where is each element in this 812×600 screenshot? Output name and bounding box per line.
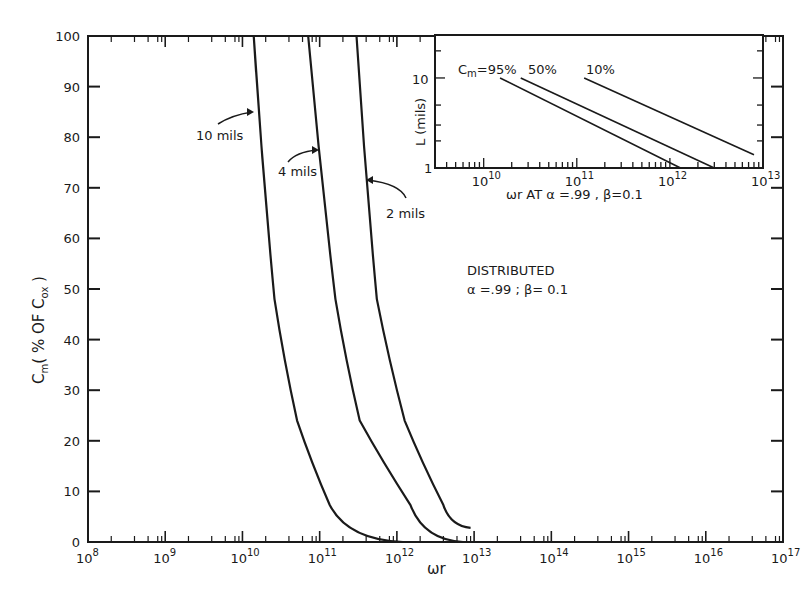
curve-label-4-mils: 4 mils: [278, 146, 319, 179]
main-x-axis-label: ωr: [427, 560, 447, 578]
svg-text:10 mils: 10 mils: [196, 128, 244, 143]
inset-xtick-label: 1012: [658, 170, 687, 189]
main-ytick-label: 100: [55, 29, 80, 44]
main-xtick-label: 1013: [462, 547, 491, 566]
svg-text:50%: 50%: [528, 62, 557, 77]
inset-ytick-10: 10: [412, 72, 429, 87]
main-ytick-label: 90: [63, 80, 80, 95]
inset-plot: 1010101110121013: [435, 35, 780, 189]
inset-ytick-1: 1: [424, 161, 432, 176]
main-xtick-label: 1010: [230, 547, 259, 566]
main-ytick-label: 50: [63, 282, 80, 297]
main-xtick-label: 1016: [694, 547, 723, 566]
inset-y-axis-label: L (mils): [413, 98, 428, 146]
main-ytick-label: 80: [63, 130, 80, 145]
svg-text:4 mils: 4 mils: [278, 164, 317, 179]
main-xtick-label: 1017: [771, 547, 800, 566]
curve-10-mils: [254, 36, 403, 542]
inset-x-axis-label: ωr AT α =.99 , β=0.1: [506, 187, 643, 202]
main-xtick-label: 1012: [385, 547, 414, 566]
svg-text:2 mils: 2 mils: [386, 206, 425, 221]
main-ytick-label: 0: [72, 535, 80, 550]
main-ytick-label: 30: [63, 383, 80, 398]
main-xtick-label: 1015: [617, 547, 646, 566]
svg-text:DISTRIBUTED: DISTRIBUTED: [467, 263, 555, 278]
main-ytick-label: 40: [63, 333, 80, 348]
main-ytick-label: 20: [63, 434, 80, 449]
main-xtick-label: 1014: [539, 547, 568, 566]
chart-canvas: 0102030405060708090100 10810910101011101…: [0, 0, 812, 600]
main-xtick-label: 1011: [308, 547, 337, 566]
main-ytick-label: 70: [63, 181, 80, 196]
svg-text:α =.99 ; β= 0.1: α =.99 ; β= 0.1: [467, 282, 568, 297]
svg-text:10%: 10%: [586, 62, 615, 77]
main-ytick-label: 10: [63, 484, 80, 499]
main-y-axis-label: Cm( % OF Cox ): [30, 276, 50, 384]
curve-label-10-mils: 10 mils: [196, 108, 254, 143]
inset-legend: Cm=95% 50% 10%: [458, 62, 615, 79]
inset-frame: [435, 35, 763, 168]
inset-xtick-label: 1013: [751, 170, 780, 189]
svg-text:Cm=95%: Cm=95%: [458, 62, 517, 79]
distributed-annotation: DISTRIBUTED α =.99 ; β= 0.1: [467, 263, 568, 297]
main-ytick-label: 60: [63, 231, 80, 246]
inset-xtick-label: 1010: [472, 170, 501, 189]
main-xtick-label: 109: [153, 547, 176, 566]
curve-label-2-mils: 2 mils: [366, 176, 425, 221]
